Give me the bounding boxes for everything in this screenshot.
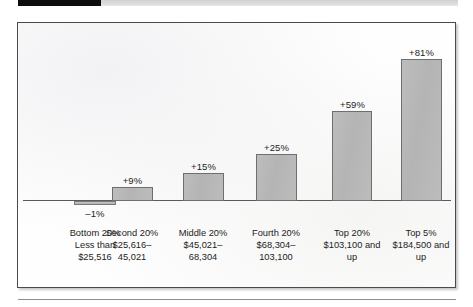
bar-value-fourth-20: +25% — [251, 142, 302, 153]
plot-area: –1% Bottom 20% Less than $25,516 +9% Sec… — [18, 23, 455, 287]
bar-value-middle-20: +15% — [178, 161, 229, 172]
category-label-line3: up — [368, 251, 473, 263]
scan-black-band — [18, 0, 101, 6]
bar-value-second-20: +9% — [107, 175, 158, 186]
page-bottom-rule — [18, 299, 456, 300]
bar-top-5[interactable] — [401, 59, 442, 201]
bar-top-20[interactable] — [332, 111, 372, 201]
category-label-line1: Top 5% — [368, 227, 473, 239]
chart-figure-frame: –1% Bottom 20% Less than $25,516 +9% Sec… — [17, 22, 456, 288]
category-label-top-5: Top 5% $184,500 and up — [368, 227, 473, 264]
bar-fourth-20[interactable] — [256, 154, 297, 201]
bar-value-top-5: +81% — [396, 47, 447, 58]
bar-middle-20[interactable] — [183, 173, 224, 201]
bar-second-20[interactable] — [112, 187, 153, 201]
bar-bottom-20[interactable] — [74, 201, 116, 205]
bar-value-bottom-20: –1% — [70, 208, 120, 219]
bar-value-top-20: +59% — [327, 99, 378, 110]
category-label-line2: $184,500 and — [368, 239, 473, 251]
